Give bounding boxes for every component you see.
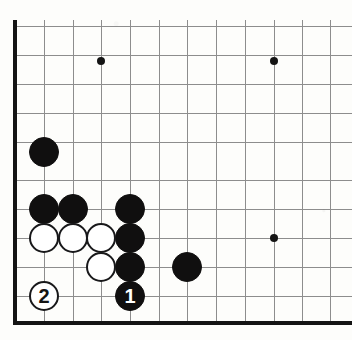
stone-label-2: 2	[38, 286, 49, 306]
grid-line-vertical-10	[274, 20, 275, 323]
star-point-1	[97, 57, 105, 65]
grid-line-vertical-11	[302, 20, 303, 323]
stone-black-1	[29, 137, 59, 167]
board-edge-bottom	[13, 321, 352, 325]
grid-line-vertical-6	[159, 20, 160, 323]
stone-black-5	[115, 223, 145, 253]
go-board-diagram: 12	[0, 0, 352, 340]
board-edge-left	[13, 20, 17, 325]
stone-label-1: 1	[124, 286, 135, 306]
stone-black-6	[115, 252, 145, 282]
move-stone-2: 2	[29, 281, 59, 311]
grid-line-vertical-3	[73, 20, 74, 323]
grid-line-vertical-2	[44, 20, 45, 323]
star-point-2	[270, 57, 278, 65]
stone-white-10	[86, 223, 116, 253]
stone-white-11	[86, 252, 116, 282]
grid-line-vertical-9	[245, 20, 246, 323]
stone-white-9	[58, 223, 88, 253]
stone-white-8	[29, 223, 59, 253]
grid-line-vertical-8	[216, 20, 217, 323]
stone-black-2	[29, 194, 59, 224]
move-stone-1: 1	[115, 281, 145, 311]
stone-black-3	[58, 194, 88, 224]
grid-line-vertical-12	[330, 20, 331, 323]
stone-black-4	[115, 194, 145, 224]
star-point-3	[270, 234, 278, 242]
stone-black-7	[172, 252, 202, 282]
